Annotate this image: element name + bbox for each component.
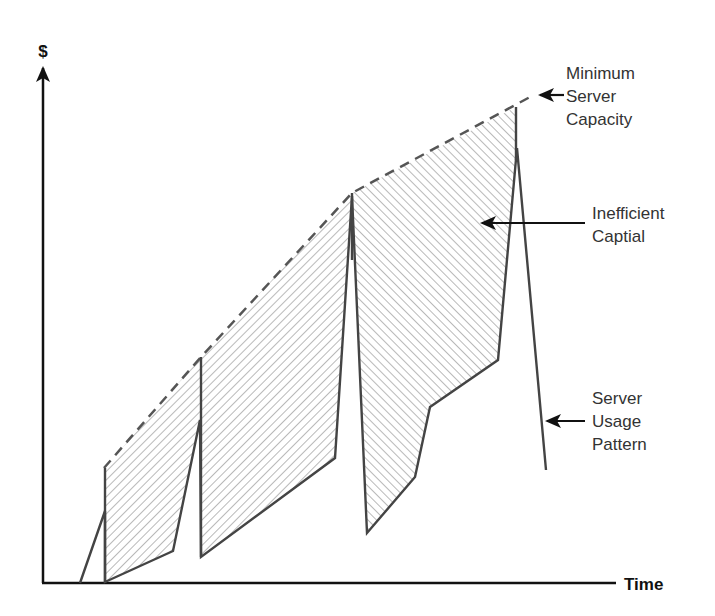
hatched-region-1 [105,357,201,582]
hatched-region-3 [352,107,517,533]
x-axis-label: Time [624,575,663,594]
server-usage-pattern-annotation: ServerUsagePattern [547,389,647,454]
capacity-vs-usage-diagram: $ Time MinimumServerCapacityInefficientC… [0,0,715,616]
inefficient-capital-label: InefficientCaptial [592,204,665,246]
minimum-server-capacity-annotation: MinimumServerCapacity [540,64,635,129]
server-usage-pattern-label: ServerUsagePattern [592,389,647,454]
minimum-server-capacity-label: MinimumServerCapacity [566,64,635,129]
y-axis-label: $ [38,42,48,61]
inefficient-capital-regions [105,107,517,582]
